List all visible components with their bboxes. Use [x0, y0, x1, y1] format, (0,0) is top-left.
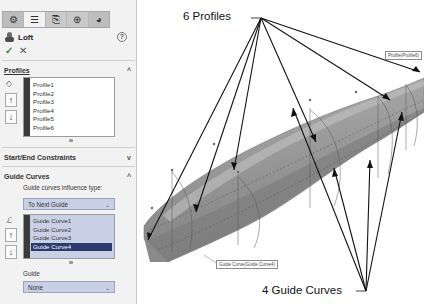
influence-type-label: Guide curves influence type: [23, 184, 102, 191]
guide-color-strip [24, 215, 30, 258]
configuration-manager-icon: ⎘ [52, 14, 60, 26]
start-end-constraints-header[interactable]: Start/End Constraints v [4, 151, 133, 163]
move-profile-down-button[interactable]: ↓ [5, 110, 17, 124]
influence-type-value: To Next Guide [28, 201, 68, 208]
property-manager-icon: ☰ [30, 14, 39, 25]
move-guide-up-button[interactable]: ↑ [5, 228, 17, 242]
tab-display-manager[interactable]: ◕ [89, 12, 109, 27]
guide-curves-listbox[interactable]: Guide Curve1 Guide Curve2 Guide Curve3 G… [23, 214, 115, 259]
cancel-button[interactable]: ✕ [19, 45, 27, 57]
list-item-profile4[interactable]: Profile4 [33, 107, 112, 116]
list-item-guide-curve2[interactable]: Guide Curve2 [31, 226, 112, 235]
profile-color-strip [24, 78, 30, 136]
guide-curve-icon: ℒ [6, 216, 12, 225]
tab-property-manager[interactable]: ☰ [24, 12, 45, 27]
list-item-profile5[interactable]: Profile5 [33, 115, 112, 124]
tab-configuration-manager[interactable]: ⎘ [46, 12, 67, 27]
guide-select-value: None [28, 284, 43, 291]
manager-tabbar: ⚙ ☰ ⎘ ⊕ ◕ [2, 11, 110, 28]
list-item-profile2[interactable]: Profile2 [33, 90, 112, 99]
ok-button[interactable]: ✓ [5, 45, 13, 57]
arrow-up-icon: ↑ [9, 95, 14, 105]
callout-4-guide-curves: 4 Guide Curves [262, 284, 342, 296]
divider [2, 147, 135, 148]
divider [2, 166, 135, 167]
profiles-header-label: Profiles [4, 67, 30, 74]
loft-model-drawing [138, 0, 424, 304]
callout-6-profiles: 6 Profiles [183, 10, 231, 22]
chevron-down-icon: ⌄ [105, 201, 110, 208]
profiles-resize-handle[interactable] [69, 139, 73, 142]
chevron-down-icon[interactable]: v [127, 154, 131, 161]
loft-icon [5, 32, 14, 42]
chevron-down-icon: ⌄ [105, 284, 110, 291]
influence-type-select[interactable]: To Next Guide ⌄ [23, 198, 115, 210]
profile6-tag[interactable]: Profile(Profile6) [385, 51, 422, 60]
move-guide-down-button[interactable]: ↓ [5, 245, 17, 259]
start-end-header-label: Start/End Constraints [4, 154, 76, 161]
guide-curves-header-label: Guide Curves [4, 173, 50, 180]
action-buttons: ✓ ✕ [5, 45, 27, 57]
help-icon[interactable]: ? [117, 32, 127, 42]
arrow-down-icon: ↓ [9, 247, 14, 257]
list-item-guide-curve3[interactable]: Guide Curve3 [31, 234, 112, 243]
list-item-profile1[interactable]: Profile1 [33, 81, 112, 90]
chevron-up-icon[interactable]: ^ [127, 173, 131, 180]
display-manager-icon: ◕ [96, 14, 102, 25]
guide-curves-section-header[interactable]: Guide Curves ^ [4, 170, 133, 182]
feature-title: Loft ? [5, 30, 133, 44]
guide-label: Guide [23, 270, 40, 277]
list-item-profile3[interactable]: Profile3 [33, 98, 112, 107]
guides-resize-handle[interactable] [69, 261, 73, 264]
move-profile-up-button[interactable]: ↑ [5, 93, 17, 107]
guide-curve4-tag[interactable]: Guide Curve(Guide Curve4) [216, 260, 278, 269]
list-item-profile6[interactable]: Profile6 [33, 124, 112, 133]
tab-feature-manager[interactable]: ⚙ [3, 12, 24, 27]
tab-dimxpert-manager[interactable]: ⊕ [67, 12, 88, 27]
arrow-down-icon: ↓ [9, 112, 14, 122]
arrow-up-icon: ↑ [9, 230, 14, 240]
divider [2, 60, 135, 61]
graphics-viewport[interactable]: 6 Profiles 4 Guide Curves Profile(Profil… [138, 0, 424, 304]
profile-select-icon: ◇ [6, 79, 12, 88]
chevron-up-icon[interactable]: ^ [127, 67, 131, 74]
list-item-guide-curve1[interactable]: Guide Curve1 [31, 217, 112, 226]
guide-select[interactable]: None ⌄ [23, 281, 115, 293]
dimxpert-icon: ⊕ [73, 14, 81, 25]
property-manager-panel: ⚙ ☰ ⎘ ⊕ ◕ Loft ? ✓ ✕ Profiles ^ ◇ ↑ ↓ [0, 0, 137, 304]
profiles-listbox[interactable]: Profile1 Profile2 Profile3 Profile4 Prof… [23, 77, 115, 137]
feature-manager-icon: ⚙ [9, 14, 18, 25]
list-item-guide-curve4[interactable]: Guide Curve4 [31, 243, 112, 252]
feature-title-text: Loft [18, 33, 33, 42]
profiles-section-header[interactable]: Profiles ^ [4, 64, 133, 76]
